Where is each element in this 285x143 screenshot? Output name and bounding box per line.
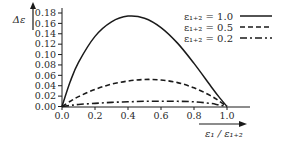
x-ticks: 0.00.20.40.60.81.0	[54, 107, 234, 121]
legend-label: ε₁₊₂ = 1.0	[184, 11, 233, 22]
y-tick-label: 0.14	[35, 28, 56, 39]
legend-label: ε₁₊₂ = 0.5	[184, 22, 233, 33]
x-tick-label: 0.4	[120, 110, 135, 121]
series-line-dash-dot	[62, 101, 227, 106]
x-tick-label: 1.0	[219, 110, 234, 121]
y-tick-label: 0.02	[35, 90, 56, 101]
x-tick-label: 0.6	[153, 110, 168, 121]
y-tick-label: 0.16	[35, 18, 56, 29]
chart: 0.000.020.040.060.080.100.120.140.160.18…	[0, 0, 285, 143]
y-tick-label: 0.08	[35, 59, 56, 70]
y-arrowhead-icon	[30, 2, 36, 9]
y-axis-label: Δε	[12, 2, 36, 30]
y-ticks: 0.000.020.040.060.080.100.120.140.160.18	[35, 7, 62, 112]
x-tick-label: 0.8	[186, 110, 201, 121]
svg-text:ε₁ / ε₁₊₂: ε₁ / ε₁₊₂	[205, 128, 243, 139]
x-arrowhead-icon	[239, 121, 247, 127]
y-tick-label: 0.18	[35, 7, 56, 18]
y-tick-label: 0.10	[35, 49, 56, 60]
y-tick-label: 0.00	[35, 101, 56, 112]
legend: ε₁₊₂ = 1.0ε₁₊₂ = 0.5ε₁₊₂ = 0.2	[184, 11, 272, 44]
x-tick-label: 0.2	[87, 110, 102, 121]
x-tick-label: 0.0	[54, 110, 69, 121]
x-axis-label: ε₁ / ε₁₊₂	[199, 121, 247, 139]
legend-label: ε₁₊₂ = 0.2	[184, 33, 233, 44]
y-tick-label: 0.04	[35, 80, 56, 91]
y-tick-label: 0.12	[35, 38, 56, 49]
y-tick-label: 0.06	[35, 70, 56, 81]
svg-text:Δε: Δε	[12, 14, 26, 25]
